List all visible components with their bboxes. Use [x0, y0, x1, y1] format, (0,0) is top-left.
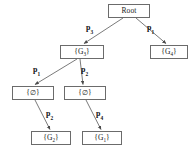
node-root-label: Root	[122, 7, 137, 15]
node-empty-left[interactable]: {∅}	[12, 86, 54, 100]
edge-label-g3-left: p1	[33, 66, 40, 76]
node-g3-label: {G3}	[74, 48, 90, 56]
node-root[interactable]: Root	[108, 4, 150, 18]
node-g1[interactable]: {G1}	[82, 131, 122, 145]
node-g4[interactable]: {G4}	[150, 45, 188, 59]
node-empty-right-label: {∅}	[78, 89, 92, 97]
edge-label-empty-left-down: p2	[46, 110, 53, 120]
empty-set-icon: ∅	[82, 89, 88, 97]
edge-g3-to-empty-left	[35, 59, 77, 85]
node-empty-left-label: {∅}	[26, 89, 40, 97]
edge-label-g3-right: p2	[81, 66, 88, 76]
edge-label-root-right: p1	[147, 24, 154, 34]
node-g3[interactable]: {G3}	[60, 45, 104, 59]
node-g1-label: {G1}	[94, 134, 110, 142]
node-g2-label: {G2}	[43, 134, 59, 142]
tree-diagram-canvas: Root {G3} {G4} {∅} {∅} {G2} {G1} p3 p1 p…	[0, 0, 192, 156]
node-g2[interactable]: {G2}	[31, 131, 71, 145]
edge-label-empty-right-down: p4	[96, 110, 103, 120]
edge-label-root-left: p3	[86, 24, 93, 34]
empty-set-icon: ∅	[30, 89, 36, 97]
node-g4-label: {G4}	[161, 48, 177, 56]
node-empty-right[interactable]: {∅}	[64, 86, 106, 100]
